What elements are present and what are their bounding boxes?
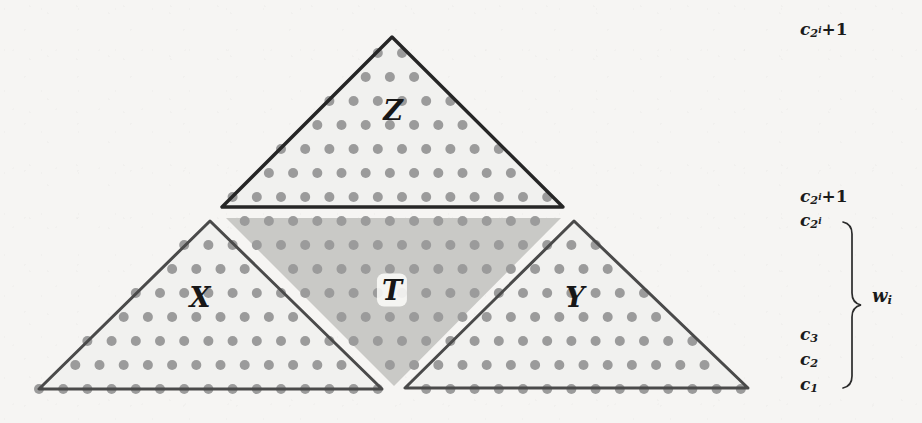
lattice-dot [482, 216, 492, 226]
lattice-dot [252, 288, 262, 298]
lattice-dot [566, 336, 576, 346]
lattice-dot [482, 168, 492, 178]
lattice-dot [324, 144, 334, 154]
lattice-dot [276, 192, 286, 202]
lattice-dot [349, 192, 359, 202]
lattice-dot [240, 360, 250, 370]
lattice-dot [530, 216, 540, 226]
lattice-dot [651, 360, 661, 370]
lattice-dot [445, 192, 455, 202]
lattice-dot [361, 72, 371, 82]
lattice-dot [300, 144, 310, 154]
lattice-dot [337, 360, 347, 370]
lattice-dot [252, 336, 262, 346]
lattice-dot [264, 168, 274, 178]
lattice-dot [203, 240, 213, 250]
lattice-dot [288, 168, 298, 178]
lattice-dot [216, 264, 226, 274]
lattice-dot [458, 216, 468, 226]
brace-path [843, 222, 861, 388]
lattice-dot [312, 360, 322, 370]
lattice-dot [397, 144, 407, 154]
lattice-dot [554, 264, 564, 274]
lattice-dot [385, 312, 395, 322]
lattice-dot [167, 360, 177, 370]
lattice-dot [530, 312, 540, 322]
lattice-dot [385, 360, 395, 370]
lattice-dot [349, 288, 359, 298]
lattice-dot [107, 336, 117, 346]
lattice-dot [312, 264, 322, 274]
lattice-dot [264, 312, 274, 322]
lattice-dot [143, 360, 153, 370]
lattice-dot [579, 312, 589, 322]
lattice-dot [554, 312, 564, 322]
lattice-dot [603, 360, 613, 370]
lattice-dot [470, 336, 480, 346]
lattice-dot [361, 216, 371, 226]
lattice-dot [337, 312, 347, 322]
lattice-dot [675, 360, 685, 370]
lattice-dot [445, 240, 455, 250]
lattice-dot [421, 240, 431, 250]
lattice-dot [179, 336, 189, 346]
lattice-dot [361, 312, 371, 322]
lattice-dot [482, 360, 492, 370]
lattice-dot [458, 264, 468, 274]
lattice-dot [240, 264, 250, 274]
lattice-dot [470, 288, 480, 298]
lattice-dot [288, 216, 298, 226]
lattice-dot [445, 144, 455, 154]
lattice-dot [191, 360, 201, 370]
lattice-dot [470, 240, 480, 250]
lattice-dot [300, 288, 310, 298]
lattice-dot [337, 168, 347, 178]
lattice-dot [191, 312, 201, 322]
lattice-dot [349, 144, 359, 154]
level-label-c-2: c2 [800, 351, 818, 370]
lattice-dot [409, 168, 419, 178]
lattice-dot [373, 336, 383, 346]
lattice-dot [603, 312, 613, 322]
lattice-dot [433, 264, 443, 274]
triangle-label-x: X [185, 281, 216, 314]
lattice-dot [373, 240, 383, 250]
lattice-dot [615, 336, 625, 346]
lattice-dot [458, 312, 468, 322]
lattice-dot [119, 312, 129, 322]
lattice-dot [421, 144, 431, 154]
region-label-t: T [377, 274, 407, 307]
lattice-dot [385, 72, 395, 82]
lattice-dot [312, 168, 322, 178]
lattice-dot [494, 192, 504, 202]
lattice-dot [506, 168, 516, 178]
lattice-dot [385, 216, 395, 226]
lattice-dot [373, 192, 383, 202]
figure-canvas: Z X Y T c2i+1c2i+1c2ic3c2c1 wi [0, 0, 922, 423]
lattice-dot [542, 288, 552, 298]
lattice-dot [337, 120, 347, 130]
lattice-dot [506, 312, 516, 322]
lattice-dot [349, 336, 359, 346]
lattice-dot [349, 96, 359, 106]
lattice-dot [518, 192, 528, 202]
lattice-dot [409, 216, 419, 226]
lattice-dot [409, 360, 419, 370]
lattice-dot [603, 264, 613, 274]
lattice-dot [651, 312, 661, 322]
lattice-dot [143, 312, 153, 322]
lattice-dot [518, 336, 528, 346]
lattice-dot [324, 288, 334, 298]
triangle-label-z: Z [378, 94, 408, 127]
lattice-dot [361, 168, 371, 178]
lattice-dot [252, 192, 262, 202]
lattice-dot [433, 360, 443, 370]
lattice-dot [433, 168, 443, 178]
lattice-dot [155, 288, 165, 298]
lattice-dot [288, 264, 298, 274]
lattice-dot [458, 168, 468, 178]
lattice-dot [119, 360, 129, 370]
lattice-dot [324, 192, 334, 202]
lattice-dot [433, 312, 443, 322]
lattice-dot [397, 240, 407, 250]
